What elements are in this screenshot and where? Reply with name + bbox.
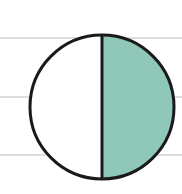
shaded-half-right [102,35,174,179]
unshaded-half-left [30,35,102,179]
fraction-circle-diagram [0,0,182,194]
